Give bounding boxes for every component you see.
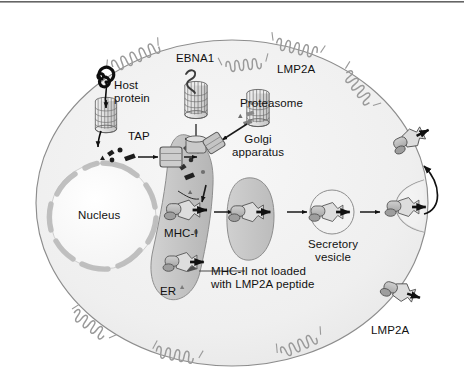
label-mhc-ii-note: MHC-II not loaded with LMP2A peptide bbox=[211, 265, 314, 290]
label-lmp2a-bottom: LMP2A bbox=[371, 324, 409, 337]
ebna1-proteasome-cap bbox=[186, 136, 206, 153]
label-lmp2a-top: LMP2A bbox=[277, 63, 315, 76]
label-golgi-apparatus: Golgi apparatus bbox=[232, 133, 284, 158]
tap-transporter bbox=[160, 147, 182, 167]
label-mhc-i: MHC-I bbox=[164, 227, 198, 240]
label-ebna1: EBNA1 bbox=[176, 52, 214, 65]
label-host-protein: Host protein bbox=[114, 79, 150, 104]
label-nucleus: Nucleus bbox=[78, 209, 120, 222]
label-tap: TAP bbox=[128, 130, 150, 143]
top-rule bbox=[0, 1, 464, 3]
label-proteasome: Proteasome bbox=[240, 97, 303, 110]
label-er: ER bbox=[160, 285, 176, 298]
label-secretory-vesicle: Secretory vesicle bbox=[305, 238, 361, 263]
